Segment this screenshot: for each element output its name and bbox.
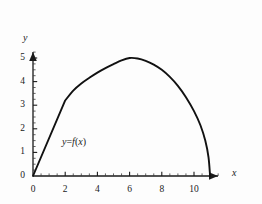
plot-canvas xyxy=(0,0,262,204)
x-tick-label: 10 xyxy=(182,185,206,195)
equation-close-paren: ) xyxy=(83,136,86,147)
function-graph-figure: 0246810 012345 x y y=f(x) xyxy=(0,0,262,204)
x-axis-group xyxy=(33,172,218,180)
function-curve xyxy=(33,58,210,176)
y-axis-group xyxy=(29,52,37,176)
x-tick-label: 2 xyxy=(53,185,77,195)
y-tick-label: 3 xyxy=(7,100,25,110)
y-tick-label: 0 xyxy=(7,171,25,181)
y-tick-label: 5 xyxy=(7,53,25,63)
y-tick-label: 2 xyxy=(7,124,25,134)
x-tick-label: 8 xyxy=(150,185,174,195)
x-tick-label: 0 xyxy=(21,185,45,195)
x-tick-label: 6 xyxy=(118,185,142,195)
y-axis-label: y xyxy=(23,33,27,43)
y-tick-label: 4 xyxy=(7,77,25,87)
x-axis-label: x xyxy=(232,168,236,178)
y-axis-arrow-icon xyxy=(29,52,37,61)
curve-equation-label: y=f(x) xyxy=(62,137,86,147)
x-tick-label: 4 xyxy=(85,185,109,195)
y-tick-label: 1 xyxy=(7,147,25,157)
